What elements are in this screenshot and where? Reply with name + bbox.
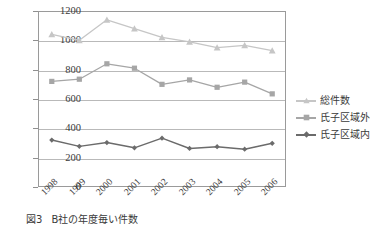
data-point	[159, 136, 164, 141]
data-point	[242, 80, 247, 85]
data-point	[104, 140, 109, 145]
data-point	[215, 85, 220, 90]
series-inside	[49, 136, 275, 152]
data-point	[48, 31, 55, 37]
series-layer	[38, 11, 286, 187]
data-point	[49, 137, 54, 142]
figure-caption: 図3B社の年度毎い件数	[26, 214, 138, 226]
data-point	[270, 141, 275, 146]
legend-item-inside[interactable]: 氏子区域内	[296, 126, 372, 143]
data-point	[270, 91, 275, 96]
data-point	[187, 146, 192, 151]
legend-item-total[interactable]: 総件数	[296, 92, 372, 109]
legend-marker-diamond-icon	[296, 129, 316, 140]
legend-marker-triangle-icon	[296, 95, 316, 106]
series-outside	[49, 61, 275, 96]
series-line	[52, 64, 272, 94]
figure-number: 図3	[26, 214, 42, 225]
data-point	[49, 79, 54, 84]
data-point	[104, 61, 109, 66]
data-point	[132, 145, 137, 150]
data-point	[77, 77, 82, 82]
chart-figure: 1200 1000 800 600 400 200 0 1998 1999 20…	[0, 0, 372, 226]
data-point	[215, 144, 220, 149]
legend: 総件数 氏子区域外 氏子区域内	[296, 92, 372, 143]
data-point	[132, 66, 137, 71]
legend-label-inside: 氏子区域内	[320, 129, 370, 140]
legend-label-total: 総件数	[320, 95, 350, 106]
data-point	[159, 82, 164, 87]
data-point	[77, 144, 82, 149]
y-axis-tick-mark	[33, 187, 38, 188]
legend-item-outside[interactable]: 氏子区域外	[296, 109, 372, 126]
figure-caption-text: B社の年度毎い件数	[51, 214, 138, 225]
data-point	[187, 77, 192, 82]
series-total	[48, 16, 275, 53]
legend-marker-square-icon	[296, 112, 316, 123]
data-point	[103, 16, 110, 22]
data-point	[242, 147, 247, 152]
legend-label-outside: 氏子区域外	[320, 112, 370, 123]
